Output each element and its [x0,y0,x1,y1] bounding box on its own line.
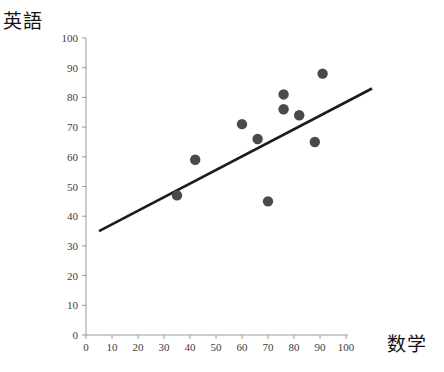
data-point [294,110,304,120]
y-axis-group: 0102030405060708090100 [62,32,87,341]
x-axis-tick-label: 80 [289,341,301,353]
data-point [172,190,182,200]
x-axis-tick-label: 90 [315,341,327,353]
x-axis-tick-label: 30 [159,341,171,353]
y-axis-tick-label: 80 [67,91,79,103]
data-point [190,155,200,165]
x-axis-tick-label: 100 [338,341,355,353]
x-axis-tick-label: 20 [133,341,145,353]
trend-line [99,88,372,231]
y-axis-tick-label: 50 [67,181,79,193]
trendline-group [99,88,372,231]
y-axis-tick-label: 100 [62,32,79,44]
y-axis-tick-label: 40 [67,210,79,222]
x-axis-group: 0102030405060708090100 [83,335,355,353]
data-point [278,89,288,99]
data-point [237,119,247,129]
data-point [310,137,320,147]
x-axis-tick-label: 70 [263,341,275,353]
y-axis-tick-label: 20 [67,270,79,282]
x-axis-tick-label: 60 [237,341,249,353]
scatter-plot-figure: 英語 数学 0102030405060708090100 01020304050… [0,0,444,372]
data-point [252,134,262,144]
y-axis-tick-label: 60 [67,151,79,163]
data-point [263,196,273,206]
y-axis-tick-label: 90 [67,62,79,74]
plot-canvas: 0102030405060708090100 01020304050607080… [0,0,444,372]
y-axis-tick-label: 0 [73,329,79,341]
y-axis-tick-label: 70 [67,121,79,133]
y-axis-tick-label: 10 [67,299,79,311]
y-axis-tick-label: 30 [67,240,79,252]
data-points-group [172,68,328,206]
x-axis-tick-label: 50 [211,341,223,353]
x-axis-tick-label: 0 [83,341,89,353]
data-point [317,68,327,78]
data-point [278,104,288,114]
x-axis-tick-label: 40 [185,341,197,353]
x-axis-tick-label: 10 [107,341,119,353]
